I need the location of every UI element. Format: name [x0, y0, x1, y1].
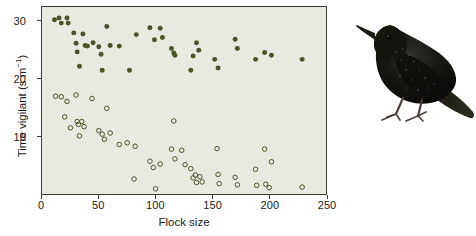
data-point [133, 144, 138, 149]
data-points-layer [42, 7, 326, 194]
data-point [216, 172, 221, 177]
starling-head [374, 25, 407, 61]
data-point [269, 53, 274, 58]
data-point [262, 50, 267, 55]
data-point [100, 132, 105, 137]
data-point [172, 53, 177, 58]
scatter-plot-figure: 050100150200250 102030 Flock size Time v… [0, 0, 476, 236]
data-point [77, 134, 82, 139]
data-point [65, 15, 70, 20]
data-point [169, 46, 174, 51]
starling-eye [386, 34, 391, 39]
data-point [215, 146, 220, 151]
x-tick-label: 100 [146, 199, 165, 211]
data-point [179, 148, 184, 153]
data-point [233, 175, 238, 180]
data-point [300, 57, 305, 62]
data-point [82, 124, 87, 129]
data-point [74, 93, 79, 98]
starling-eye-highlight [387, 35, 389, 37]
y-tick-label: 30 [14, 15, 26, 27]
data-point [191, 53, 196, 58]
data-point [148, 159, 153, 164]
data-point [117, 142, 122, 147]
data-point [102, 137, 107, 142]
y-tick-mark [37, 20, 41, 21]
data-point [62, 115, 67, 120]
data-point [194, 40, 199, 45]
data-point [117, 44, 122, 49]
y-tick-mark [37, 78, 41, 79]
data-point [104, 24, 109, 29]
data-point [66, 21, 71, 26]
data-point [132, 177, 137, 182]
data-point [75, 49, 80, 54]
x-tick-label: 200 [260, 199, 279, 211]
starling-beak [356, 25, 375, 40]
data-point [158, 162, 163, 167]
data-point [160, 35, 165, 40]
series-filled-markers [52, 15, 305, 72]
data-point [134, 32, 139, 37]
common-starling-illustration [356, 0, 476, 236]
data-point [108, 131, 113, 136]
starling-body-group [356, 25, 474, 121]
data-point [235, 46, 240, 51]
data-point [173, 157, 178, 162]
data-point [79, 119, 84, 124]
data-point [108, 43, 113, 48]
data-point [127, 68, 132, 73]
data-point [235, 183, 240, 188]
data-point [253, 167, 258, 172]
data-point [147, 25, 152, 30]
y-tick-mark [37, 136, 41, 137]
data-point [189, 166, 194, 171]
data-point [198, 174, 203, 179]
data-point [91, 40, 96, 45]
data-point [269, 159, 274, 164]
data-point [96, 44, 101, 49]
data-point [153, 187, 158, 192]
plot-frame [41, 6, 327, 195]
data-point [59, 94, 64, 99]
data-point [80, 32, 85, 37]
data-point [100, 68, 105, 73]
x-tick-label: 0 [38, 199, 44, 211]
y-axis-title-tail: ) [16, 55, 28, 59]
data-point [262, 147, 267, 152]
data-point [71, 30, 76, 35]
data-point [75, 119, 80, 124]
data-point [171, 119, 176, 124]
data-point [77, 64, 82, 69]
data-point [194, 180, 199, 185]
data-point [57, 15, 62, 20]
data-point [158, 26, 163, 31]
data-point [65, 99, 70, 104]
data-point [85, 44, 90, 49]
data-point [300, 185, 305, 190]
data-point [200, 180, 205, 185]
y-axis-title-exponent: −1 [14, 59, 23, 68]
x-axis-title: Flock size [41, 216, 327, 228]
data-point [90, 96, 95, 101]
y-axis-title: Time vigilant (s m−1) [16, 26, 28, 186]
data-point [212, 57, 217, 62]
data-point [68, 126, 73, 131]
data-point [254, 183, 259, 188]
data-point [104, 106, 109, 111]
x-tick-label: 50 [92, 199, 104, 211]
data-point [125, 141, 130, 146]
data-point [59, 21, 64, 26]
data-point [53, 94, 58, 99]
data-point [152, 37, 157, 42]
data-point [216, 66, 221, 71]
data-point [188, 68, 193, 73]
x-tick-label: 250 [318, 199, 337, 211]
data-point [233, 37, 238, 42]
y-axis-title-text: Time vigilant (s m [16, 68, 28, 158]
data-point [217, 181, 222, 186]
data-point [253, 57, 258, 62]
data-point [267, 185, 272, 190]
chart-area: 050100150200250 102030 Flock size Time v… [0, 0, 356, 236]
data-point [74, 41, 79, 46]
